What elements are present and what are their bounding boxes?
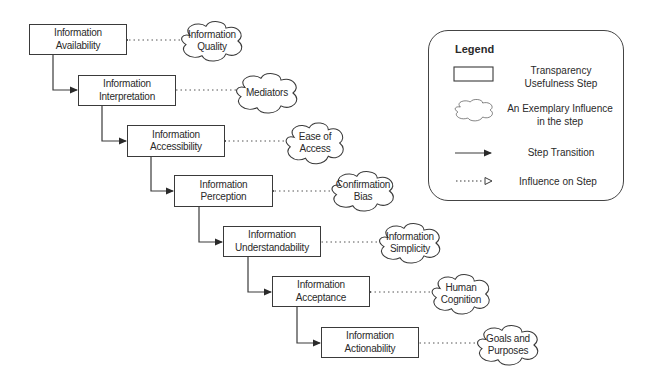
step-information-availability: Information Availability <box>29 24 127 55</box>
step-label-line1: Information <box>200 179 248 192</box>
step-information-interpretation: Information Interpretation <box>78 75 176 106</box>
step-label-line2: Perception <box>201 191 247 204</box>
step-information-perception: Information Perception <box>174 175 273 207</box>
legend-item-influence: An Exemplary Influence in the step <box>495 102 625 128</box>
step-information-actionability: Information Actionability <box>321 327 419 358</box>
influence-label-line2: Cognition <box>441 294 481 307</box>
legend-title: Legend <box>455 43 494 55</box>
legend-label-line2: in the step <box>495 115 625 128</box>
legend-label-line2: Usefulness Step <box>511 77 611 90</box>
influence-label-line1: Human <box>445 282 476 295</box>
influence-label-line1: Goals and <box>486 333 530 346</box>
influence-label-line1: Mediators <box>246 87 288 100</box>
step-information-accessibility: Information Accessibility <box>127 125 225 157</box>
step-information-understandability: Information Understandability <box>223 226 321 257</box>
step-label-line1: Information <box>103 78 151 91</box>
influence-label-line2: Quality <box>197 41 227 54</box>
influence-label-line2: Purposes <box>488 345 529 358</box>
legend-label-line1: An Exemplary Influence <box>495 102 625 115</box>
legend: Legend Transparency Usefulness Step An E… <box>428 30 624 201</box>
legend-item-step: Transparency Usefulness Step <box>511 64 611 90</box>
influence-label-line2: Bias <box>354 191 373 204</box>
influence-goals-and-purposes: Goals and Purposes <box>478 332 538 358</box>
step-label-line1: Information <box>346 330 394 343</box>
legend-label-line1: Transparency <box>511 64 611 77</box>
influence-label-line1: Ease of <box>299 131 332 144</box>
step-label-line1: Information <box>54 27 102 40</box>
influence-mediators: Mediators <box>237 81 297 105</box>
influence-label-line2: Simplicity <box>390 243 430 256</box>
influence-ease-of-access: Ease of Access <box>285 130 345 156</box>
influence-information-quality: Information Quality <box>182 28 242 54</box>
step-label-line1: Information <box>297 279 345 292</box>
influence-confirmation-bias: Confirmation Bias <box>331 178 395 204</box>
influence-human-cognition: Human Cognition <box>431 281 491 307</box>
step-information-acceptance: Information Acceptance <box>272 276 370 307</box>
step-label-line2: Availability <box>56 40 101 53</box>
step-label-line2: Actionability <box>345 343 396 356</box>
step-label-line2: Acceptance <box>296 292 346 305</box>
influence-label-line2: Access <box>299 143 330 156</box>
legend-label-line1: Influence on Step <box>503 175 613 188</box>
step-label-line2: Accessibility <box>150 141 202 154</box>
legend-item-influence-on-step: Influence on Step <box>503 175 613 188</box>
step-label-line2: Interpretation <box>99 91 155 104</box>
legend-label-line1: Step Transition <box>511 146 611 159</box>
step-label-line1: Information <box>248 229 296 242</box>
step-label-line2: Understandability <box>235 242 309 255</box>
step-label-line1: Information <box>152 129 200 142</box>
influence-label-line1: Information <box>386 231 434 244</box>
influence-label-line1: Information <box>188 29 236 42</box>
influence-label-line1: Confirmation <box>336 179 390 192</box>
legend-item-step-transition: Step Transition <box>511 146 611 159</box>
influence-information-simplicity: Information Simplicity <box>380 230 440 256</box>
